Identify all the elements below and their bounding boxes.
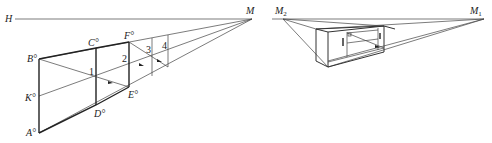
ray-M1-mid xyxy=(328,19,484,61)
label-3: 3 xyxy=(146,44,151,55)
ray-A-M xyxy=(39,19,252,133)
label-4: 4 xyxy=(162,40,167,51)
diag-B-E xyxy=(39,59,129,87)
label-M: M xyxy=(245,5,255,16)
label-1: 1 xyxy=(89,66,94,77)
label-A: A° xyxy=(25,127,36,138)
label-D: D° xyxy=(93,108,105,119)
label-F: F° xyxy=(123,30,134,41)
label-2: 2 xyxy=(122,53,127,64)
ray-M2-1 xyxy=(283,19,328,67)
left-figure: H M B° K° A° C° F° D° E° 1 2 3 4 xyxy=(4,5,255,138)
inner-top xyxy=(347,30,378,33)
top-edge xyxy=(39,42,129,59)
ray-M2-3 xyxy=(283,19,384,26)
right-figure: M2 M1 xyxy=(272,5,484,67)
label-E: E° xyxy=(127,89,138,100)
ray-M1-bottom xyxy=(328,19,484,67)
arrow-3 xyxy=(157,59,162,62)
label-M1: M1 xyxy=(469,5,482,18)
box-bottom-left xyxy=(316,61,328,67)
label-B: B° xyxy=(27,53,37,64)
label-C: C° xyxy=(88,37,99,48)
label-K: K° xyxy=(24,92,36,103)
inner-diag xyxy=(347,33,384,48)
bottom-edge xyxy=(39,87,129,133)
arrow-2 xyxy=(139,63,144,66)
label-H: H xyxy=(4,13,13,24)
perspective-diagram: H M B° K° A° C° F° D° E° 1 2 3 4 xyxy=(0,0,492,143)
box-top-left xyxy=(316,29,328,32)
box-bottom-front xyxy=(328,52,384,67)
label-M2: M2 xyxy=(274,5,287,18)
ray-K-M xyxy=(39,19,252,96)
